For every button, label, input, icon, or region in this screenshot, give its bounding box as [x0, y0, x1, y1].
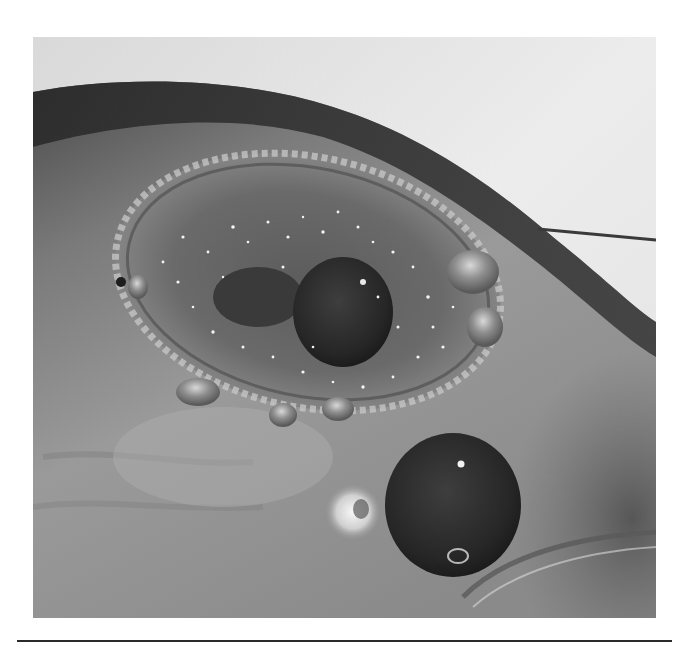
photograph-illustration	[33, 37, 656, 618]
vesicle	[269, 403, 297, 427]
bright-lesion-spot	[325, 484, 381, 540]
vesicle	[128, 275, 148, 299]
vesicle	[447, 250, 499, 294]
skin-highlight	[113, 407, 333, 507]
vesicle	[467, 307, 503, 347]
dark-punctum	[116, 277, 126, 287]
horizontal-rule	[17, 640, 672, 642]
ulcer-crater	[213, 267, 303, 327]
lesion-spot-center	[353, 499, 369, 519]
nodule-highlight	[360, 279, 366, 285]
central-nodule	[293, 257, 393, 367]
lower-nodule-highlight	[458, 461, 465, 468]
vesicle	[322, 397, 354, 421]
figure-page	[0, 0, 697, 658]
lower-nodule	[385, 433, 521, 577]
vesicle	[176, 378, 220, 406]
clinical-photograph	[33, 37, 656, 618]
